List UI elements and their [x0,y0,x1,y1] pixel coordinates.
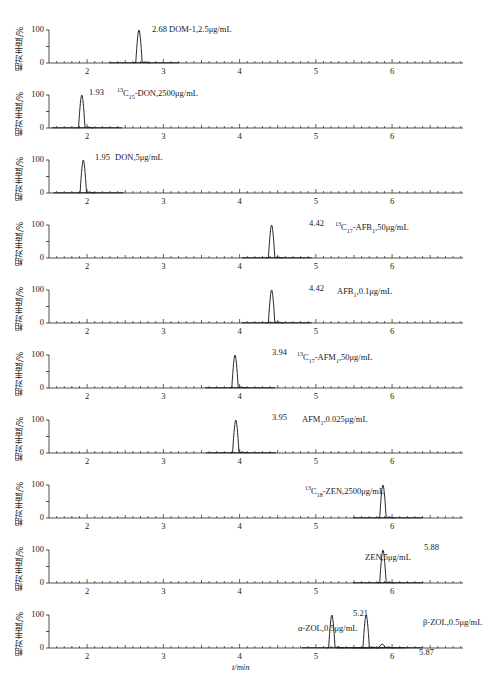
compound-label: α-ZOL,0.5μg/mL [298,623,358,633]
compound-label: AFB1,0.1μg/mL [337,286,392,298]
retention-time-label: 5.87 [419,647,434,657]
chromatogram-panel: 相对丰度/%1000234564.4213C17-AFB1,50μg/mL [0,217,486,283]
plot-area [0,477,486,543]
x-tick-label: 2 [79,326,95,336]
x-tick-label: 3 [155,261,171,271]
x-tick-label: 2 [79,131,95,141]
retention-time-label: 4.42 [309,283,324,293]
retention-time-label: 1.93 [89,87,104,97]
x-tick-label: 4 [232,521,248,531]
retention-time-label: 5.21 [353,608,368,618]
plot-area [0,347,486,413]
plot-area [0,87,486,153]
x-tick-label: 5 [308,196,324,206]
x-tick-label: 5 [308,261,324,271]
x-tick-label: 4 [232,651,248,661]
compound-label: DON,5μg/mL [115,152,163,162]
retention-time-label: 2.68 [152,24,167,34]
retention-time-label: 5.88 [424,542,439,552]
x-tick-label: 6 [384,131,400,141]
x-tick-label: 3 [155,651,171,661]
plot-area [0,22,486,88]
chromatogram-panel: 相对丰度/%1000234564.42AFB1,0.1μg/mL [0,282,486,348]
x-tick-label: 5 [308,586,324,596]
plot-area [0,152,486,218]
x-tick-label: 6 [384,521,400,531]
x-tick-label: 4 [232,196,248,206]
retention-time-label: 4.42 [309,218,324,228]
x-tick-label: 3 [155,586,171,596]
x-tick-label: 6 [384,66,400,76]
chromatogram-panel: 相对丰度/%1000234562.68DOM-1,2.5μg/mL [0,22,486,88]
compound-label-2: β-ZOL,0.5μg/mL [423,617,482,627]
compound-label: DOM-1,2.5μg/mL [169,24,232,34]
x-tick-label: 5 [308,131,324,141]
x-tick-label: 2 [79,651,95,661]
x-tick-label: 6 [384,456,400,466]
chromatogram-panel: 相对丰度/%1000234561.9313C15-DON,2500μg/mL [0,87,486,153]
retention-time-label: 3.95 [272,412,287,422]
x-tick-label: 4 [232,586,248,596]
x-tick-label: 6 [384,651,400,661]
x-tick-label: 3 [155,521,171,531]
compound-label: 13C17-AFB1,50μg/mL [335,221,409,234]
plot-area [0,412,486,478]
chromatogram-panel: 相对丰度/%1000234563.9413C17-AFM1,50μg/mL [0,347,486,413]
x-tick-label: 4 [232,456,248,466]
x-tick-label: 2 [79,66,95,76]
x-tick-label: 6 [384,196,400,206]
chromatogram-panel: 相对丰度/%1000234565.88ZEN,5μg/mL [0,542,486,608]
x-tick-label: 2 [79,391,95,401]
compound-label: ZEN,5μg/mL [365,552,411,562]
x-tick-label: 5 [308,391,324,401]
compound-label: 13C15-DON,2500μg/mL [117,87,198,100]
x-tick-label: 3 [155,456,171,466]
x-tick-label: 2 [79,196,95,206]
x-tick-label: 2 [79,456,95,466]
x-tick-label: 2 [79,586,95,596]
x-tick-label: 5 [308,66,324,76]
x-tick-label: 6 [384,586,400,596]
compound-label: 13C17-AFM1,50μg/mL [297,351,373,364]
compound-label: AFM1,0.025μg/mL [302,414,368,426]
chromatogram-panel: 相对丰度/%10002345613C18-ZEN,2500μg/mL [0,477,486,543]
x-tick-label: 3 [155,131,171,141]
retention-time-label: 3.94 [272,347,287,357]
x-tick-label: 4 [232,326,248,336]
x-tick-label: 4 [232,391,248,401]
x-tick-label: 3 [155,66,171,76]
x-tick-label: 4 [232,131,248,141]
plot-area [0,217,486,283]
plot-area [0,282,486,348]
x-tick-label: 3 [155,326,171,336]
x-tick-label: 5 [308,326,324,336]
x-tick-label: 5 [308,456,324,466]
compound-label: 13C18-ZEN,2500μg/mL [305,485,384,498]
x-tick-label: 3 [155,196,171,206]
x-tick-label: 5 [308,521,324,531]
x-tick-label: 6 [384,391,400,401]
retention-time-label: 1.95 [95,152,110,162]
plot-area [0,542,486,608]
x-tick-label: 2 [79,261,95,271]
x-axis-title: t/min [232,662,249,672]
x-tick-label: 4 [232,261,248,271]
chromatogram-panel: 相对丰度/%1000234561.95DON,5μg/mL [0,152,486,218]
x-tick-label: 2 [79,521,95,531]
x-tick-label: 5 [308,651,324,661]
chromatogram-panel: 相对丰度/%1000234563.95AFM1,0.025μg/mL [0,412,486,478]
x-tick-label: 4 [232,66,248,76]
x-tick-label: 3 [155,391,171,401]
x-tick-label: 6 [384,261,400,271]
x-tick-label: 6 [384,326,400,336]
